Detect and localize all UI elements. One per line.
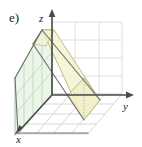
z-axis-label: z	[39, 13, 43, 24]
x-axis-label: x	[16, 134, 21, 145]
figure-panel-e: e) z y x	[0, 0, 142, 147]
coordinate-system-svg	[0, 0, 142, 147]
y-axis-arrow	[126, 92, 134, 99]
y-axis-label: y	[123, 101, 128, 112]
panel-label: e)	[9, 11, 19, 24]
z-axis-arrow	[49, 9, 56, 17]
